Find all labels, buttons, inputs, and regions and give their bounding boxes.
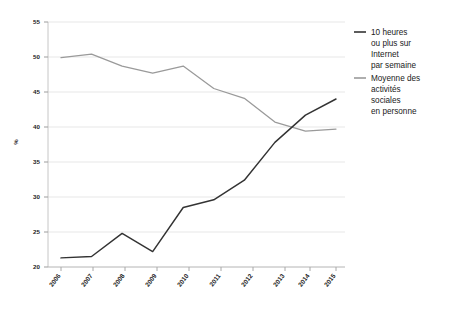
y-tick-label-30: 30 — [33, 193, 40, 200]
chart-canvas: 55 50 45 40 35 30 25 20 % 2006 2007 2008 — [0, 0, 450, 313]
y-tick-label-35: 35 — [33, 158, 40, 165]
legend-label-0-line-3: par semaine — [371, 61, 417, 70]
legend-label-0-line-0: 10 heures — [371, 28, 407, 37]
legend-label-1-line-1: activités — [371, 85, 401, 94]
legend-label-1-line-0: Moyenne des — [371, 74, 420, 83]
y-axis-label: % — [13, 139, 19, 145]
y-tick-label-25: 25 — [33, 228, 40, 235]
legend-label-1-line-3: en personne — [371, 107, 417, 116]
y-tick-label-20: 20 — [33, 263, 40, 270]
y-tick-label-45: 45 — [33, 88, 40, 95]
legend-label-1-line-2: sociales — [371, 96, 401, 105]
legend-label-0-line-1: ou plus sur — [371, 39, 411, 48]
y-tick-label-55: 55 — [33, 18, 40, 25]
line-chart: 55 50 45 40 35 30 25 20 % 2006 2007 2008 — [0, 0, 450, 313]
legend-label-0-line-2: Internet — [371, 50, 399, 59]
y-tick-label-40: 40 — [33, 123, 40, 130]
y-tick-label-50: 50 — [33, 53, 40, 60]
